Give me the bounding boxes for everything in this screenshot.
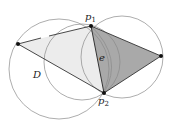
- label-p2: p2: [98, 95, 109, 108]
- label-region-d: D: [32, 69, 41, 80]
- delaunay-edge-diagram: p1 p2 e D: [0, 0, 173, 127]
- point-left: [16, 42, 20, 46]
- label-edge-e: e: [99, 52, 105, 63]
- point-p1: [89, 24, 93, 28]
- point-right: [159, 54, 163, 58]
- light-triangle-region: [18, 26, 104, 93]
- label-p1: p1: [85, 11, 96, 24]
